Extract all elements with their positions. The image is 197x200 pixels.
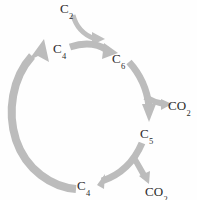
co2-right-subscript: 2 <box>186 108 190 118</box>
cycle-diagram: C2 C4 C6 CO2 C5 C4 CO2 <box>0 0 197 200</box>
c5-element: C <box>140 126 149 141</box>
node-label-c4-top: C4 <box>53 42 66 55</box>
arrow-c6-to-c5 <box>129 62 156 122</box>
c5-subscript: 5 <box>149 136 153 146</box>
c4-bottom-subscript: 4 <box>86 188 90 198</box>
arrow-co2-bottom-branch <box>134 158 150 184</box>
c4-top-element: C <box>53 41 62 56</box>
arrow-c2-input <box>73 15 105 45</box>
c4-top-subscript: 4 <box>62 51 66 61</box>
arrow-c4-bottom-to-c4-top <box>12 39 76 189</box>
co2-right-element: CO <box>168 98 186 113</box>
c2-element: C <box>60 1 69 16</box>
c4-bottom-element: C <box>77 178 86 193</box>
c6-subscript: 6 <box>121 61 125 71</box>
c6-element: C <box>112 51 121 66</box>
arrow-c4-to-c6 <box>70 43 118 59</box>
node-label-c5: C5 <box>140 127 153 140</box>
node-label-c2: C2 <box>60 2 73 15</box>
node-label-co2-bottom: CO2 <box>145 185 168 198</box>
node-label-co2-right: CO2 <box>168 99 191 112</box>
node-label-c6: C6 <box>112 52 125 65</box>
node-label-c4-bottom: C4 <box>77 179 90 192</box>
c2-subscript: 2 <box>69 11 73 21</box>
arrow-c5-to-c4 <box>97 143 142 189</box>
co2-bottom-element: CO <box>145 184 163 199</box>
co2-bottom-subscript: 2 <box>163 194 167 200</box>
